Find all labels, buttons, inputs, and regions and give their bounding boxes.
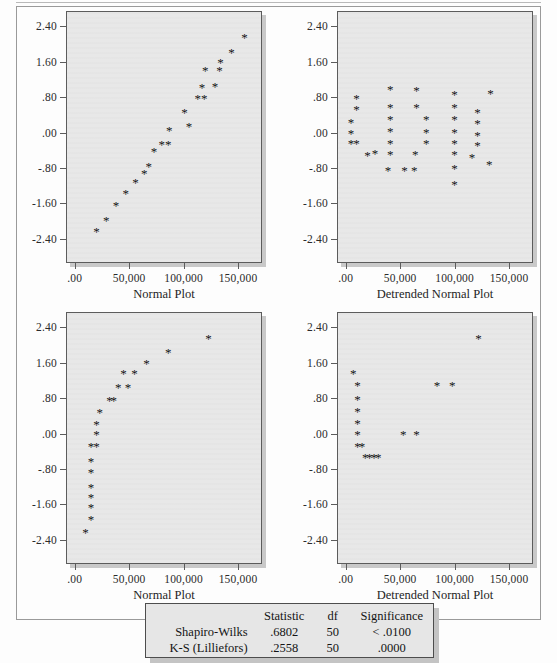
y-axis-tick-label: .80 <box>42 91 57 103</box>
x-axis-tick <box>400 564 401 570</box>
y-axis-tick-label: -2.40 <box>303 233 328 245</box>
data-point-marker: * <box>399 429 408 440</box>
x-axis-title: Normal Plot <box>66 287 262 302</box>
x-axis-tick-label: 100,000 <box>435 573 474 585</box>
data-point-marker: * <box>142 358 151 369</box>
y-axis-tick-label: 1.60 <box>307 56 328 68</box>
data-point-marker: * <box>352 138 361 149</box>
x-axis-tick <box>129 564 130 570</box>
y-axis-tick <box>331 97 338 98</box>
scanned-output-page: **********************2.401.60.80.00-.80… <box>0 0 557 663</box>
data-point-marker: * <box>386 84 395 95</box>
data-point-marker: * <box>119 368 128 379</box>
table-header-row: Statistic df Significance <box>146 608 433 625</box>
y-axis-tick <box>331 504 338 505</box>
data-point-marker: * <box>92 226 101 237</box>
y-axis-tick-label: -2.40 <box>32 233 57 245</box>
plot-area: ********************* <box>66 312 262 564</box>
x-axis-tick <box>238 263 239 269</box>
data-point-marker: * <box>165 125 174 136</box>
y-axis-tick <box>331 540 338 541</box>
y-axis-tick <box>60 168 67 169</box>
y-axis-tick <box>60 133 67 134</box>
data-point-marker: * <box>412 102 421 113</box>
x-axis-tick-label: 50,000 <box>384 272 417 284</box>
data-point-marker: * <box>144 161 153 172</box>
data-point-marker: * <box>86 482 95 493</box>
y-axis-tick-label: 2.40 <box>36 321 57 333</box>
data-point-marker: * <box>121 188 130 199</box>
cell-shapiro-statistic: .6802 <box>254 625 315 641</box>
y-axis-tick <box>60 504 67 505</box>
x-axis-tick-label: 50,000 <box>113 573 146 585</box>
y-axis-tick-label: 1.60 <box>36 357 57 369</box>
data-point-marker: * <box>412 85 421 96</box>
header-df: df <box>315 608 351 625</box>
y-axis-tick-label: -.80 <box>38 162 57 174</box>
table-row: K-S (Lilliefors) .2558 50 .0000 <box>146 641 433 657</box>
x-axis-tick <box>346 564 347 570</box>
y-axis-tick <box>331 434 338 435</box>
x-axis-tick-label: 150,000 <box>219 272 258 284</box>
y-axis-tick-label: .80 <box>313 91 328 103</box>
x-axis-tick <box>129 263 130 269</box>
y-axis-tick <box>60 97 67 98</box>
x-axis-tick-label: 150,000 <box>490 573 529 585</box>
plot-panel-bottom-right: *****************2.401.60.80.00-.80-1.60… <box>337 312 533 564</box>
data-point-marker: * <box>450 163 459 174</box>
data-point-marker: * <box>450 114 459 125</box>
data-point-marker: * <box>92 441 101 452</box>
x-axis-tick <box>509 263 510 269</box>
data-point-marker: * <box>353 380 362 391</box>
y-axis-tick <box>331 469 338 470</box>
data-point-marker: * <box>227 47 236 58</box>
y-axis-tick <box>60 26 67 27</box>
x-axis-tick-label: 150,000 <box>490 272 529 284</box>
y-axis-tick-label: .00 <box>42 127 57 139</box>
x-axis-tick-label: .00 <box>67 573 82 585</box>
x-axis-tick-label: 150,000 <box>219 573 258 585</box>
x-axis-title: Normal Plot <box>66 588 262 603</box>
data-point-marker: * <box>123 382 132 393</box>
row-label-ks-lilliefors: K-S (Lilliefors) <box>146 641 254 657</box>
y-axis-tick-label: 1.60 <box>307 357 328 369</box>
x-axis-tick-label: 50,000 <box>113 272 146 284</box>
data-point-marker: * <box>164 347 173 358</box>
x-axis-tick <box>75 564 76 570</box>
cell-ks-df: 50 <box>315 641 351 657</box>
data-point-marker: * <box>109 395 118 406</box>
data-point-marker: * <box>86 467 95 478</box>
data-point-marker: * <box>485 159 494 170</box>
y-axis-tick <box>60 203 67 204</box>
data-point-marker: * <box>384 165 393 176</box>
header-blank <box>146 608 254 625</box>
y-axis-tick <box>60 540 67 541</box>
x-axis-tick <box>75 263 76 269</box>
data-point-marker: * <box>400 165 409 176</box>
data-point-marker: * <box>349 368 358 379</box>
data-point-marker: * <box>211 81 220 92</box>
x-axis-tick <box>184 564 185 570</box>
x-axis-tick-label: 50,000 <box>384 573 417 585</box>
header-significance: Significance <box>351 608 434 625</box>
x-axis-tick <box>238 564 239 570</box>
data-point-marker: * <box>433 380 442 391</box>
x-axis-tick-label: .00 <box>338 272 353 284</box>
y-axis-tick-label: -.80 <box>309 463 328 475</box>
y-axis-tick-label: -.80 <box>309 162 328 174</box>
data-point-marker: * <box>180 107 189 118</box>
x-axis-tick <box>346 263 347 269</box>
y-axis-tick <box>331 363 338 364</box>
x-axis-tick <box>509 564 510 570</box>
data-point-marker: * <box>486 88 495 99</box>
data-point-marker: * <box>450 102 459 113</box>
y-axis-tick-label: .00 <box>313 127 328 139</box>
data-point-marker: * <box>184 121 193 132</box>
data-point-marker: * <box>474 333 483 344</box>
plot-panel-top-right: **************************************2.… <box>337 11 533 263</box>
data-point-marker: * <box>448 380 457 391</box>
data-point-marker: * <box>352 104 361 115</box>
y-axis-tick-label: .00 <box>42 428 57 440</box>
x-axis-tick-label: 100,000 <box>435 272 474 284</box>
table-row: Shapiro-Wilks .6802 50 < .0100 <box>146 625 433 641</box>
